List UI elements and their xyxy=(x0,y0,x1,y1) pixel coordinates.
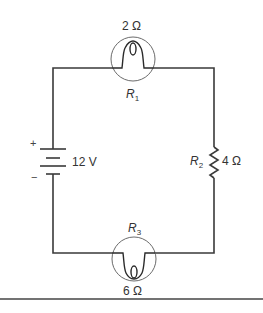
lamp-r1-icon xyxy=(111,37,155,81)
r2-value: 4 Ω xyxy=(222,154,241,168)
lamp-r3-icon xyxy=(112,237,156,281)
r3-symbol: R xyxy=(128,221,137,235)
battery-voltage: 12 V xyxy=(72,155,97,169)
r3-subscript: 3 xyxy=(137,228,141,237)
r1-value: 2 Ω xyxy=(122,19,141,33)
battery-icon xyxy=(40,149,66,174)
battery-minus-sign: − xyxy=(31,172,37,183)
r1-subscript: 1 xyxy=(135,94,139,103)
r3-value: 6 Ω xyxy=(123,284,142,298)
resistor-r2-icon xyxy=(210,147,218,178)
r2-symbol-label: R2 xyxy=(190,155,203,170)
r3-symbol-label: R3 xyxy=(128,222,141,237)
r1-symbol: R xyxy=(126,87,135,101)
r1-symbol-label: R1 xyxy=(126,88,139,103)
battery-plus-sign: + xyxy=(30,138,36,149)
battery-voltage-label: 12 V xyxy=(72,156,97,168)
r3-value-label: 6 Ω xyxy=(123,285,142,297)
r2-subscript: 2 xyxy=(199,161,203,170)
r2-value-label: 4 Ω xyxy=(222,155,241,167)
r1-value-label: 2 Ω xyxy=(122,20,141,32)
r2-symbol: R xyxy=(190,154,199,168)
